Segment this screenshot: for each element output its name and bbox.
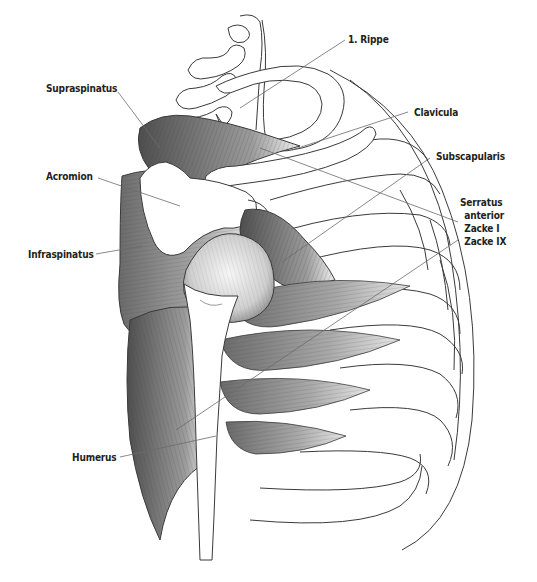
- label-zacke-1: Zacke I: [460, 222, 506, 235]
- label-serratus-line2: anterior: [460, 209, 506, 222]
- label-serratus-line1: Serratus: [460, 196, 502, 208]
- label-supraspinatus: Supraspinatus: [46, 82, 117, 95]
- leader-humerus: [120, 436, 216, 457]
- label-infraspinatus: Infraspinatus: [28, 248, 94, 261]
- label-zacke-9: Zacke IX: [460, 235, 506, 248]
- label-serratus-anterior: Serratus anterior Zacke I Zacke IX: [460, 196, 506, 248]
- label-clavicula: Clavicula: [414, 106, 458, 119]
- leader-zacke9: [176, 240, 458, 430]
- leader-clavicula: [292, 112, 408, 150]
- leader-rippe: [240, 40, 345, 108]
- label-first-rib: 1. Rippe: [348, 33, 389, 46]
- label-acromion: Acromion: [46, 170, 93, 183]
- leader-acromion: [98, 178, 180, 206]
- leader-subscapularis: [282, 158, 430, 262]
- label-humerus: Humerus: [72, 451, 117, 464]
- leader-infraspinatus: [96, 246, 142, 254]
- leader-supraspinatus: [118, 92, 160, 148]
- anatomy-figure: 1. Rippe Supraspinatus Clavicula Acromio…: [0, 0, 537, 582]
- label-subscapularis: Subscapularis: [436, 150, 505, 163]
